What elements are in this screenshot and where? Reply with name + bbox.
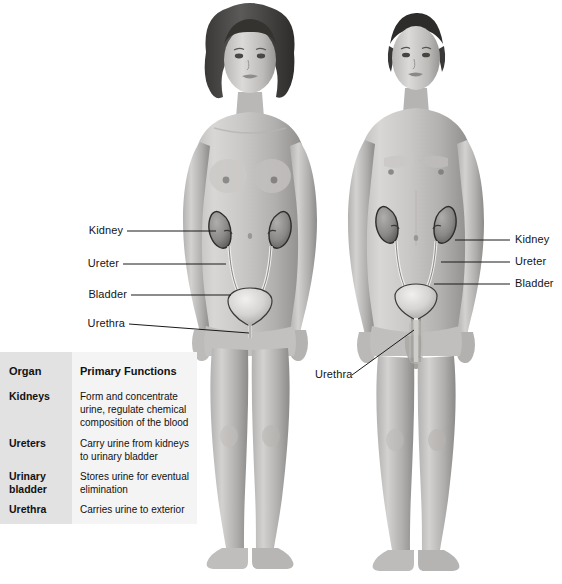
male-figure xyxy=(348,13,484,571)
label-kidney-male: Kidney xyxy=(515,234,549,245)
table-row: Urethra Carries urine to exterior xyxy=(0,503,197,516)
label-ureter-male: Ureter xyxy=(515,256,546,267)
table-header-organ: Organ xyxy=(0,356,72,379)
table-row: Kidneys Form and concentrate urine, regu… xyxy=(0,390,197,430)
label-urethra-female: Urethra xyxy=(88,318,125,329)
table-header-row: Organ Primary Functions xyxy=(0,352,197,382)
table-cell-function: Carry urine from kidneys to urinary blad… xyxy=(72,437,197,463)
label-bladder-male: Bladder xyxy=(515,278,554,289)
label-kidney-female: Kidney xyxy=(89,225,123,236)
table-row: Urinary bladder Stores urine for eventua… xyxy=(0,470,197,496)
table-cell-organ: Urethra xyxy=(0,503,72,516)
table-cell-organ: Urinary bladder xyxy=(0,470,72,496)
female-figure xyxy=(183,3,317,569)
label-urethra-male: Urethra xyxy=(315,369,352,380)
label-ureter-female: Ureter xyxy=(88,258,119,269)
table-cell-function: Carries urine to exterior xyxy=(72,503,197,516)
label-bladder-female: Bladder xyxy=(88,289,127,300)
illustration-canvas: Kidney Ureter Bladder Urethra Kidney Ure… xyxy=(0,0,562,584)
table-header-functions: Primary Functions xyxy=(72,355,197,379)
table-cell-organ: Ureters xyxy=(0,437,72,463)
organ-function-table: Organ Primary Functions Kidneys Form and… xyxy=(0,352,197,524)
table-cell-function: Stores urine for eventual elimination xyxy=(72,470,197,496)
table-cell-organ: Kidneys xyxy=(0,390,72,430)
table-cell-organ-line2: bladder xyxy=(9,483,47,495)
table-cell-function: Form and concentrate urine, regulate che… xyxy=(72,390,197,430)
table-row: Ureters Carry urine from kidneys to urin… xyxy=(0,437,197,463)
table-cell-organ-line1: Urinary xyxy=(9,470,46,482)
